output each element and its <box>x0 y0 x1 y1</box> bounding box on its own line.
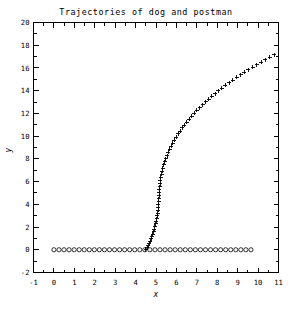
data-point-postman <box>239 248 243 252</box>
data-point-postman <box>82 248 86 252</box>
data-point-dog <box>246 68 250 72</box>
data-point-postman <box>244 248 248 252</box>
data-point-postman <box>112 248 116 252</box>
data-point-dog <box>231 78 235 82</box>
data-point-dog <box>216 89 220 93</box>
data-point-dog <box>154 219 158 223</box>
data-point-postman <box>67 248 71 252</box>
data-point-dog <box>201 103 205 107</box>
y-tick-label: 20 <box>21 18 30 27</box>
chart-title: Trajectories of dog and postman <box>59 7 232 17</box>
data-point-dog <box>251 65 255 69</box>
data-point-dog <box>154 222 158 226</box>
data-point-postman <box>87 248 91 252</box>
data-point-postman <box>148 248 152 252</box>
data-point-dog <box>152 227 156 231</box>
y-tick-label: 6 <box>25 177 29 186</box>
y-axis-minor-ticks <box>34 34 279 261</box>
data-point-postman <box>249 248 253 252</box>
data-point-dog <box>259 60 263 64</box>
data-point-dog <box>190 114 194 118</box>
x-tick-label: 2 <box>93 278 97 287</box>
y-axis-label: y <box>4 147 13 153</box>
data-point-postman <box>107 248 111 252</box>
x-tick-label: -1 <box>29 278 38 287</box>
data-point-postman <box>153 248 157 252</box>
data-point-dog <box>178 129 182 133</box>
y-tick-label: 16 <box>21 64 30 73</box>
data-point-postman <box>133 248 137 252</box>
data-point-postman <box>158 248 162 252</box>
data-point-dog <box>239 73 243 77</box>
data-point-postman <box>234 248 238 252</box>
data-point-dog <box>227 81 231 85</box>
data-point-postman <box>208 248 212 252</box>
y-tick-label: 10 <box>21 132 30 141</box>
data-point-dog <box>151 232 155 236</box>
plot-frame <box>34 23 279 273</box>
data-point-dog <box>213 92 217 96</box>
x-tick-label: 7 <box>195 278 199 287</box>
y-tick-label: 0 <box>25 245 29 254</box>
data-point-postman <box>57 248 61 252</box>
data-point-postman <box>102 248 106 252</box>
data-point-dog <box>263 58 267 62</box>
x-tick-label: 10 <box>254 278 263 287</box>
data-point-dog <box>207 97 211 101</box>
data-point-postman <box>219 248 223 252</box>
x-axis-tick-labels: -101234567891011 <box>29 278 283 287</box>
data-point-postman <box>77 248 81 252</box>
x-tick-label: 8 <box>215 278 219 287</box>
data-point-dog <box>223 83 227 87</box>
x-axis-minor-ticks <box>44 23 269 273</box>
data-point-dog <box>180 126 184 130</box>
pursuit-curve-plot: Trajectories of dog and postman -1012345… <box>0 0 293 309</box>
x-axis-label: x <box>153 290 159 299</box>
data-point-postman <box>203 248 207 252</box>
y-axis-ticks <box>34 23 279 273</box>
data-point-postman <box>138 248 142 252</box>
y-tick-label: 8 <box>25 154 29 163</box>
data-point-dog <box>195 108 199 112</box>
y-tick-label: 14 <box>21 86 30 95</box>
data-point-dog <box>198 106 202 110</box>
data-point-dog <box>242 70 246 74</box>
y-tick-label: -2 <box>21 268 30 277</box>
data-point-dog <box>255 63 259 67</box>
data-point-dog <box>192 111 196 115</box>
data-point-dog <box>150 234 154 238</box>
data-point-postman <box>198 248 202 252</box>
data-point-postman <box>213 248 217 252</box>
data-point-dog <box>220 86 224 90</box>
y-tick-label: 4 <box>25 200 29 209</box>
x-tick-label: 0 <box>52 278 56 287</box>
chart-figure: Trajectories of dog and postman -1012345… <box>0 0 293 309</box>
data-point-postman <box>97 248 101 252</box>
y-tick-label: 12 <box>21 109 30 118</box>
data-point-postman <box>62 248 66 252</box>
data-point-postman <box>224 248 228 252</box>
x-tick-label: 4 <box>133 278 137 287</box>
data-point-dog <box>159 175 163 179</box>
y-tick-label: 18 <box>21 41 30 50</box>
y-axis-tick-labels: -202468101214161820 <box>21 18 30 277</box>
data-point-postman <box>117 248 121 252</box>
data-point-dog <box>152 230 156 234</box>
y-tick-label: 2 <box>25 223 29 232</box>
data-point-postman <box>178 248 182 252</box>
series-dog-markers <box>144 53 276 252</box>
data-point-postman <box>229 248 233 252</box>
data-point-dog <box>187 117 191 121</box>
x-tick-label: 5 <box>154 278 158 287</box>
data-point-postman <box>123 248 127 252</box>
data-point-postman <box>173 248 177 252</box>
x-tick-label: 9 <box>236 278 240 287</box>
x-axis-ticks <box>34 23 279 273</box>
data-point-dog <box>161 166 165 170</box>
data-point-dog <box>182 123 186 127</box>
x-tick-label: 11 <box>274 278 283 287</box>
data-point-postman <box>188 248 192 252</box>
data-point-dog <box>153 224 157 228</box>
data-point-dog <box>160 169 164 173</box>
x-tick-label: 3 <box>113 278 117 287</box>
